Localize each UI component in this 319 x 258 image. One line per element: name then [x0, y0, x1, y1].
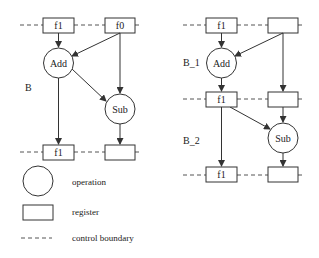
- left-edges: [59, 33, 121, 144]
- block-label-b: B: [25, 82, 32, 93]
- diagram-canvas: f1 f0 Add Sub B f: [0, 0, 319, 258]
- left-diagram: f1 f0 Add Sub B f: [20, 18, 142, 160]
- svg-text:Sub: Sub: [112, 104, 128, 115]
- register-f1-bottom-right: f1: [206, 167, 237, 182]
- operation-sub: Sub: [105, 94, 135, 124]
- svg-text:operation: operation: [72, 177, 106, 187]
- register-f1-top-right: f1: [206, 18, 237, 33]
- svg-text:Add: Add: [50, 58, 67, 69]
- svg-text:f0: f0: [116, 20, 124, 31]
- svg-text:f1: f1: [54, 20, 62, 31]
- block-label-b1: B_1: [183, 57, 200, 68]
- svg-text:Sub: Sub: [275, 133, 291, 144]
- register-f1-bottom: f1: [43, 145, 74, 160]
- register-empty-middle-right: [268, 92, 298, 107]
- svg-text:Add: Add: [213, 58, 230, 69]
- register-f0-top: f0: [105, 18, 135, 33]
- block-label-b2: B_2: [183, 135, 200, 146]
- svg-text:f1: f1: [217, 94, 225, 105]
- operation-add-right: Add: [207, 48, 237, 78]
- legend-operation: operation: [23, 166, 106, 196]
- svg-text:f1: f1: [217, 169, 225, 180]
- legend: operation register control boundary: [21, 166, 134, 243]
- operation-sub-right: Sub: [268, 123, 298, 153]
- operation-add: Add: [44, 48, 74, 78]
- svg-text:f1: f1: [217, 20, 225, 31]
- right-diagram: f1 B_1 Add f1: [183, 18, 305, 182]
- legend-register: register: [23, 205, 99, 220]
- register-f1-middle-right: f1: [206, 92, 237, 107]
- register-empty-bottom-right: [268, 167, 298, 182]
- register-f1-top: f1: [43, 18, 74, 33]
- register-empty-top-right: [268, 18, 298, 33]
- svg-text:f1: f1: [54, 147, 62, 158]
- svg-text:control boundary: control boundary: [72, 233, 134, 243]
- rectangle-icon: [23, 205, 53, 220]
- circle-icon: [23, 166, 53, 196]
- svg-text:register: register: [72, 207, 99, 217]
- register-empty-bottom: [105, 145, 135, 160]
- legend-control-boundary: control boundary: [21, 233, 134, 243]
